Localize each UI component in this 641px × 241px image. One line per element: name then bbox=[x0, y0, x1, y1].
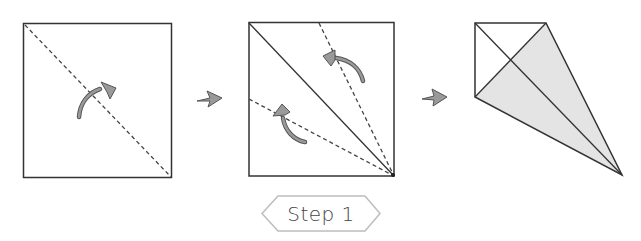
panel-2 bbox=[249, 23, 395, 178]
next-step-arrow-icon bbox=[422, 89, 447, 106]
corner-dot bbox=[391, 173, 395, 177]
panel-1 bbox=[24, 24, 172, 178]
step-label: Step 1 bbox=[262, 195, 380, 232]
panel-3 bbox=[475, 23, 622, 175]
next-step-arrow-icon bbox=[197, 91, 222, 107]
